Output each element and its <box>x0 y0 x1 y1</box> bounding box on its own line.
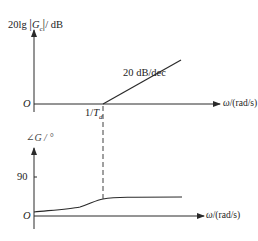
phase-tick-90-label: 90 <box>17 172 28 183</box>
ylabel-prefix: 20lg <box>8 19 27 30</box>
corner-sub: d <box>99 113 103 121</box>
xlabel-unit: /(rad/s) <box>230 98 257 108</box>
corner-frequency-label: 1/Td <box>85 108 103 121</box>
ylabel-var: G <box>32 19 40 30</box>
magnitude-x-label: ω/(rad/s) <box>223 99 257 109</box>
xlabel-var: ω <box>223 98 230 108</box>
xlabel-unit: /(rad/s) <box>213 210 240 220</box>
slope-label: 20 dB/dec <box>123 68 166 79</box>
phase-origin-label: O <box>23 211 31 222</box>
ylabel-unit: / dB <box>45 19 63 30</box>
phase-x-label: ω/(rad/s) <box>206 211 240 221</box>
xlabel-var: ω <box>206 210 213 220</box>
corner-num: 1/ <box>85 107 93 118</box>
magnitude-origin-label: O <box>23 99 31 110</box>
magnitude-y-label: 20lg |Gc|/ dB <box>8 17 63 33</box>
bode-diagram <box>0 0 258 241</box>
phase-curve <box>34 197 182 212</box>
phase-y-label: ∠G / ° <box>26 133 53 143</box>
